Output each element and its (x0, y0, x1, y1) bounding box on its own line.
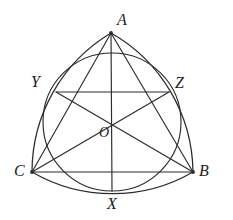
point-label-o: O (99, 126, 109, 140)
geometry-canvas (0, 0, 233, 220)
point-label-a: A (117, 12, 127, 28)
point-label-z: Z (175, 75, 184, 91)
cevian-ax (111, 33, 112, 191)
point-label-x: X (107, 196, 117, 212)
point-label-c: C (14, 163, 25, 179)
vertex-dot-b (191, 170, 195, 174)
vertex-dot-c (30, 170, 34, 174)
point-label-b: B (199, 163, 209, 179)
segment-ca (32, 33, 111, 172)
cevian-by (56, 92, 193, 172)
geometry-figure: A B C X Y Z O (0, 0, 233, 220)
point-label-y: Y (31, 74, 40, 90)
vertex-dot-a (109, 31, 113, 35)
